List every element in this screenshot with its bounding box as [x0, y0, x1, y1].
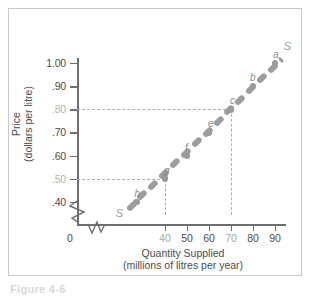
y-tick-mark	[70, 179, 77, 180]
y-tick-mark	[70, 132, 77, 133]
x-tick-mark	[275, 225, 276, 231]
data-point-label-h: h	[134, 188, 140, 199]
supply-curve-segment	[191, 136, 203, 148]
y-axis-title-sub: (dollars per litre)	[22, 69, 34, 179]
curve-label-s-end: S	[284, 40, 292, 52]
x-axis-title: Quantity Supplied (millions of litres pe…	[77, 247, 289, 271]
data-point-g	[162, 175, 169, 182]
y-tick-mark	[70, 202, 77, 203]
figure-caption: Figure 4-6	[10, 283, 66, 297]
guide-line-horizontal	[77, 109, 231, 110]
y-tick-mark	[70, 109, 77, 110]
data-point-label-g: g	[164, 165, 170, 176]
data-point-e	[206, 129, 213, 136]
guide-line-horizontal	[77, 179, 165, 180]
x-tick-mark	[253, 225, 254, 231]
x-tick-label: 0	[57, 232, 83, 244]
supply-curve-segment	[256, 73, 268, 85]
x-tick-mark	[165, 225, 166, 231]
supply-curve-segment	[212, 115, 224, 127]
x-axis-title-main: Quantity Supplied	[77, 247, 289, 259]
x-axis-line	[77, 224, 286, 226]
data-point-label-e: e	[208, 118, 214, 129]
data-point-label-b: b	[250, 72, 256, 83]
y-tick-mark	[70, 63, 77, 64]
x-tick-mark	[187, 225, 188, 231]
guide-line-vertical	[231, 109, 232, 214]
y-axis-title: Price (dollars per litre)	[10, 69, 34, 179]
data-point-c	[228, 106, 235, 113]
supply-curve-segment	[147, 179, 159, 191]
x-tick-mark	[209, 225, 210, 231]
data-point-label-a: a	[273, 49, 279, 60]
guide-line-vertical	[165, 179, 166, 215]
y-axis-title-main: Price	[10, 69, 22, 179]
supply-curve-segment	[234, 94, 246, 106]
data-point-label-f: f	[185, 142, 188, 153]
data-point-h	[133, 199, 140, 206]
x-axis-title-sub: (millions of litres per year)	[77, 259, 289, 271]
y-tick-label: .40	[0, 196, 66, 208]
x-tick-mark	[231, 225, 232, 231]
supply-curve-segment	[169, 158, 181, 170]
supply-curve-chart: 1.00.90.80.70.60.50.40 0405060708090 Pri…	[0, 0, 312, 298]
data-point-label-c: c	[230, 95, 235, 106]
y-tick-label: 1.00	[0, 57, 66, 69]
data-point-f	[184, 152, 191, 159]
x-tick-label: 90	[262, 232, 288, 244]
y-tick-mark	[70, 86, 77, 87]
y-tick-mark	[70, 156, 77, 157]
y-axis-line	[77, 58, 79, 225]
curve-label-s-start: S	[116, 207, 124, 219]
